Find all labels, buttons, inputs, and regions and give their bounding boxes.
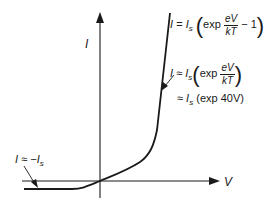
eq-sign: = xyxy=(176,18,182,30)
reverse-pointer-arrow-icon xyxy=(31,179,38,188)
iv-curve xyxy=(24,13,170,189)
eq-exp: exp xyxy=(203,18,221,30)
eq-minus-one: − 1 xyxy=(241,18,257,30)
right-paren: ) xyxy=(257,13,264,38)
x-axis-arrow-icon xyxy=(209,177,220,185)
eq-is-sub: s xyxy=(189,24,193,33)
x-axis-label: V xyxy=(224,176,232,188)
eq-lhs: I xyxy=(170,18,173,30)
eq-fraction: eVkT xyxy=(224,14,238,37)
reverse-saturation-label: I ≈ −Is xyxy=(15,154,44,168)
y-axis-label: I xyxy=(85,38,88,50)
diode-equation-full: I = Is (exp eVkT − 1) xyxy=(170,14,264,37)
diode-equation-approx: I ≈ Is(exp eVkT) xyxy=(170,63,242,86)
y-axis-arrow-icon xyxy=(96,12,104,23)
diode-equation-numeric: ≈ Is (exp 40V) xyxy=(177,93,244,107)
left-paren: ( xyxy=(196,13,203,38)
